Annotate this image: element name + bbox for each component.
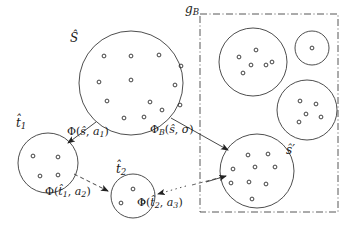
sample-point bbox=[38, 174, 42, 178]
label-t2-hat: t̂2 bbox=[116, 163, 126, 177]
sample-point bbox=[298, 99, 302, 103]
sample-point bbox=[31, 154, 35, 158]
sample-point bbox=[237, 55, 241, 59]
sample-point bbox=[273, 165, 277, 169]
sample-point bbox=[266, 152, 270, 156]
sample-point bbox=[247, 180, 251, 184]
edge-label-phi-t2-a3: Φ(t̂2, a3) bbox=[137, 197, 183, 210]
edge-label-phi-b-s-sigma: ΦB(ŝ, σ) bbox=[150, 124, 194, 137]
sample-point bbox=[231, 167, 235, 171]
sample-point bbox=[148, 100, 152, 104]
cluster-circle-top-right bbox=[295, 31, 329, 65]
sample-point bbox=[314, 102, 318, 106]
sample-point bbox=[254, 48, 258, 52]
sample-point bbox=[97, 80, 101, 84]
sample-point bbox=[157, 53, 161, 57]
sample-point bbox=[160, 108, 164, 112]
label-t1-hat: t̂1 bbox=[16, 117, 26, 131]
sample-point bbox=[310, 46, 314, 50]
sample-point bbox=[297, 120, 301, 124]
sample-point bbox=[178, 103, 182, 107]
edge-arrow-into-sprime bbox=[206, 176, 226, 182]
sample-point bbox=[122, 116, 126, 120]
sample-point bbox=[142, 115, 146, 119]
sample-point bbox=[173, 83, 177, 87]
diagram-canvas: Ŝ t̂1 t̂2 ŝ′ gB Φ(ŝ, a1) Φ(t̂1, a2) Φ(t̂… bbox=[0, 0, 344, 229]
sample-point bbox=[319, 115, 323, 119]
sample-point bbox=[129, 78, 133, 82]
s-prime-circle bbox=[220, 134, 294, 208]
sample-point bbox=[102, 54, 106, 58]
sample-point bbox=[264, 182, 268, 186]
edge-t2-to-next bbox=[158, 186, 186, 194]
sample-point bbox=[241, 71, 245, 75]
sample-point bbox=[264, 63, 268, 67]
sample-point bbox=[246, 153, 250, 157]
boundary-box bbox=[200, 14, 338, 212]
sample-point bbox=[56, 155, 60, 159]
cluster-circle-mid-right bbox=[277, 80, 337, 140]
sample-point bbox=[119, 201, 123, 205]
sample-point bbox=[56, 173, 60, 177]
sample-point bbox=[249, 63, 253, 67]
sample-point bbox=[229, 181, 233, 185]
sample-point bbox=[253, 165, 257, 169]
label-g-b: gB bbox=[185, 3, 199, 17]
sample-point bbox=[105, 99, 109, 103]
edge-label-phi-t1-a2: Φ(t̂1, a2) bbox=[45, 186, 91, 199]
sample-point bbox=[304, 112, 308, 116]
cluster-circle-top-left bbox=[219, 28, 287, 96]
label-s-hat: Ŝ bbox=[70, 32, 78, 44]
s-hat-circle bbox=[79, 31, 183, 135]
label-s-prime: ŝ′ bbox=[286, 144, 295, 156]
sample-point bbox=[129, 54, 133, 58]
sample-point bbox=[250, 197, 254, 201]
sample-point bbox=[270, 60, 274, 64]
edge-label-phi-s-a1: Φ(ŝ, a1) bbox=[67, 126, 109, 139]
sample-point bbox=[131, 187, 135, 191]
